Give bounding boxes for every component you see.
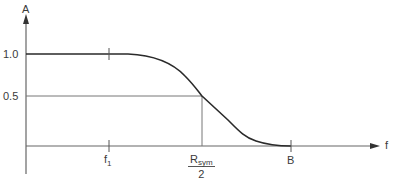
y-axis-arrow-icon [23, 14, 29, 24]
x-axis-arrow-icon [370, 143, 380, 149]
y-tick-1-0: 1.0 [3, 49, 18, 60]
y-tick-0-5: 0.5 [3, 91, 18, 102]
rsym-main: R [190, 153, 198, 165]
y-axis-label: A [22, 4, 29, 15]
f1-sub: 1 [107, 159, 111, 168]
rsym-numerator: Rsym [188, 153, 215, 167]
f1-label: f1 [104, 154, 112, 165]
rsym-sub: sym [198, 158, 213, 167]
b-label: B [287, 155, 294, 166]
rsym-denominator: 2 [188, 167, 215, 180]
amplitude-curve [26, 54, 291, 146]
x-axis-label: f [385, 140, 388, 151]
rsym-half-label: Rsym 2 [188, 153, 215, 180]
